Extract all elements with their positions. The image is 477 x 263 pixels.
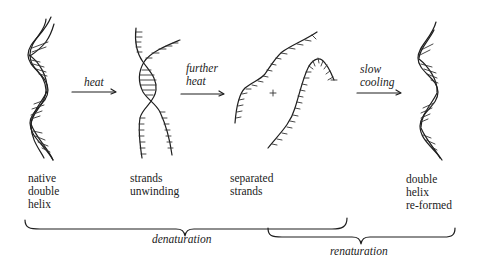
separated-strands-label: separated strands xyxy=(230,172,273,198)
stage-label-line: helix xyxy=(406,186,452,199)
stage-label-line: double xyxy=(28,185,59,198)
strands-unwinding-label: strands unwinding xyxy=(130,172,179,198)
double-helix-reformed-label: double helix re-formed xyxy=(406,173,452,212)
stage-label-line: unwinding xyxy=(130,185,179,198)
stage-label-line: re-formed xyxy=(406,199,452,212)
unwinding-strands-drawing xyxy=(135,28,180,158)
further-heat-label-line-1: further xyxy=(186,62,218,75)
slow-cooling-label-line-1: slow xyxy=(360,63,395,76)
stage-label-line: double xyxy=(406,173,452,186)
stage-label-line: native xyxy=(28,172,59,185)
separated-strands-drawing xyxy=(235,32,337,148)
further-heat-label: further heat xyxy=(186,62,218,88)
heat-label-line: heat xyxy=(84,76,104,89)
heat-arrow xyxy=(72,89,116,94)
slow-cooling-label: slow cooling xyxy=(360,63,395,89)
reformed-double-helix-drawing xyxy=(418,22,442,160)
stage-label-line: separated xyxy=(230,172,273,185)
stage-label-line: strands xyxy=(130,172,179,185)
slow-cooling-arrow xyxy=(357,90,401,95)
further-heat-label-line-2: heat xyxy=(186,75,218,88)
plus-symbol xyxy=(270,90,276,96)
stage-label-line: helix xyxy=(28,198,59,211)
denaturation-label-text: denaturation xyxy=(152,233,211,245)
renaturation-brace xyxy=(268,228,455,244)
native-double-helix-label: native double helix xyxy=(28,172,59,211)
renaturation-label-text: renaturation xyxy=(330,245,388,257)
dna-denaturation-diagram: heat further heat slow cooling native do… xyxy=(0,0,477,263)
native-double-helix-drawing xyxy=(28,17,54,160)
denaturation-label: denaturation xyxy=(152,233,211,246)
stage-label-line: strands xyxy=(230,185,273,198)
renaturation-label: renaturation xyxy=(330,245,388,258)
slow-cooling-label-line-2: cooling xyxy=(360,76,395,89)
heat-label: heat xyxy=(84,76,104,89)
further-heat-arrow xyxy=(181,91,224,96)
